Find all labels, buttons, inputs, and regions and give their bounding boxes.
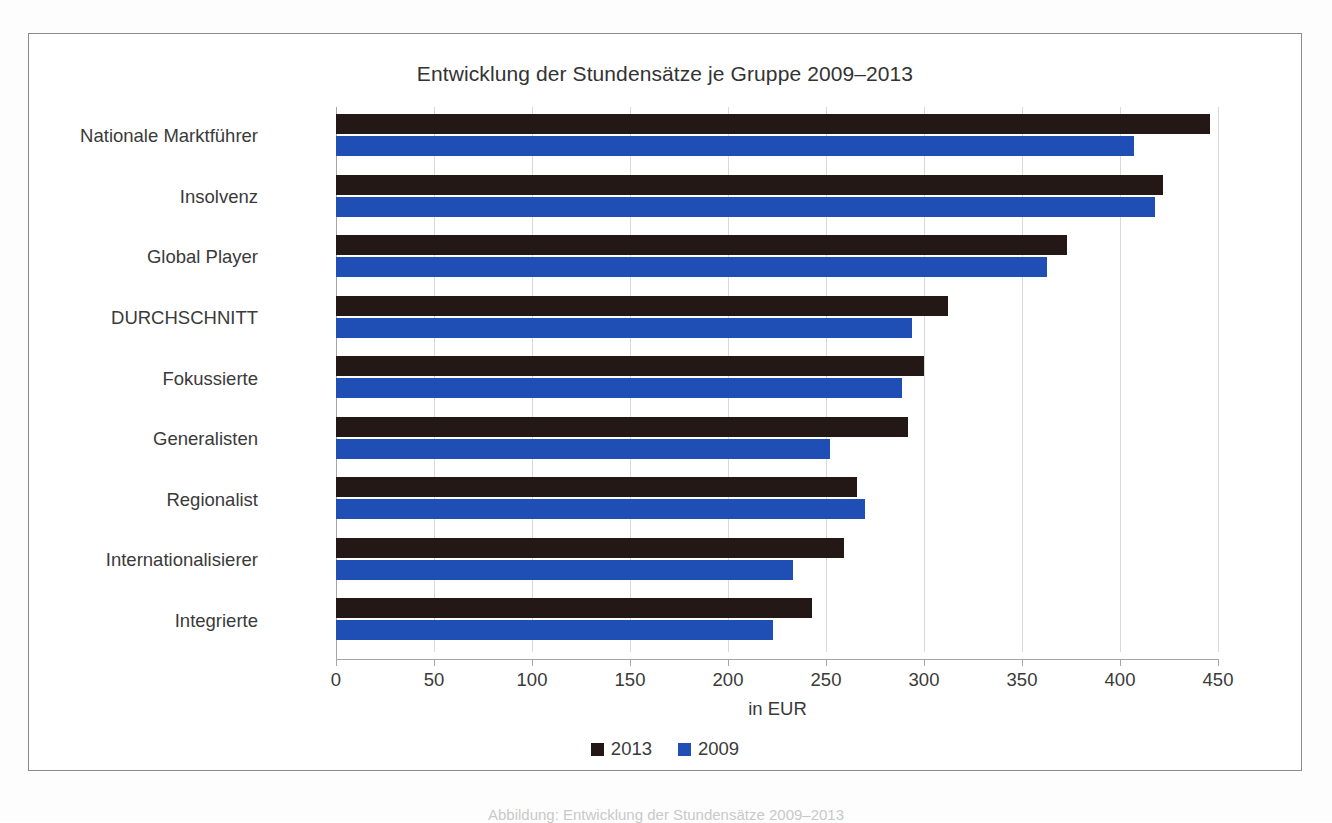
bar-group [336,531,1218,592]
x-axis-tick-label: 450 [1203,669,1234,691]
chart-legend: 20132009 [29,738,1301,760]
x-axis-tick-mark [728,659,729,666]
bar-2009 [336,197,1155,217]
bar-group [336,349,1218,410]
bar-group [336,168,1218,229]
bar-2009 [336,439,830,459]
y-axis-label: Fokussierte [0,368,258,390]
chart-frame: Entwicklung der Stundensätze je Gruppe 2… [28,33,1302,771]
legend-label: 2009 [698,738,739,760]
bar-2013 [336,175,1163,195]
bar-2013 [336,477,857,497]
x-axis-tick-mark [1120,659,1121,666]
x-axis-tick-label: 350 [1007,669,1038,691]
x-axis-tick-label: 200 [713,669,744,691]
bar-2009 [336,378,902,398]
bar-2013 [336,598,812,618]
x-axis-tick-label: 0 [331,669,341,691]
bar-2009 [336,318,912,338]
bar-2009 [336,620,773,640]
y-axis-label: Generalisten [0,428,258,450]
bar-2013 [336,538,844,558]
x-axis-tick-label: 300 [909,669,940,691]
x-axis-tick-label: 150 [615,669,646,691]
bar-2013 [336,114,1210,134]
bar-2013 [336,296,948,316]
x-axis-line [336,659,1219,660]
x-axis-tick-label: 100 [517,669,548,691]
chart-title: Entwicklung der Stundensätze je Gruppe 2… [29,62,1301,86]
bar-2009 [336,560,793,580]
y-axis-label: Integrierte [0,610,258,632]
x-axis-tick-mark [1218,659,1219,666]
bar-group [336,289,1218,350]
legend-label: 2013 [611,738,652,760]
y-axis-label: Global Player [0,246,258,268]
bar-group [336,470,1218,531]
bar-2013 [336,235,1067,255]
x-axis-tick-mark [434,659,435,666]
bar-2013 [336,417,908,437]
y-axis-label: DURCHSCHNITT [0,307,258,329]
gridline [1218,107,1219,652]
bar-2009 [336,136,1134,156]
plot-area [336,107,1218,652]
legend-entry-2013: 2013 [591,738,652,760]
legend-entry-2009: 2009 [678,738,739,760]
x-axis-tick-label: 250 [811,669,842,691]
bar-group [336,410,1218,471]
x-axis-tick-mark [336,659,337,666]
x-axis-title: in EUR [336,698,1219,720]
bar-group [336,591,1218,652]
bar-group [336,107,1218,168]
x-axis-tick-mark [924,659,925,666]
legend-swatch-icon [678,743,691,756]
y-axis-label: Internationalisierer [0,549,258,571]
figure-caption: Abbildung: Entwicklung der Stundensätze … [0,806,1332,823]
bar-2009 [336,257,1047,277]
bar-group [336,228,1218,289]
y-axis-label: Nationale Marktführer [0,125,258,147]
y-axis-label: Regionalist [0,489,258,511]
legend-swatch-icon [591,743,604,756]
x-axis-tick-mark [826,659,827,666]
x-axis-tick-mark [630,659,631,666]
y-axis-label: Insolvenz [0,186,258,208]
bar-2009 [336,499,865,519]
x-axis-tick-label: 50 [424,669,445,691]
x-axis-tick-mark [532,659,533,666]
x-axis-tick-label: 400 [1105,669,1136,691]
x-axis-tick-mark [1022,659,1023,666]
bar-2013 [336,356,924,376]
